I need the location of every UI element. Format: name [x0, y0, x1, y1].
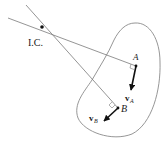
- rigid-body-diagram: I.C. A v A B v B: [0, 0, 165, 144]
- point-a-label: A: [132, 52, 139, 62]
- ic-label: I.C.: [28, 37, 43, 48]
- velocity-a-subscript: A: [129, 98, 134, 104]
- line-ic-to-b: [26, 5, 118, 108]
- velocity-b-arrow: [104, 108, 118, 121]
- right-angle-mark-b: [109, 102, 115, 108]
- velocity-b-subscript: B: [94, 118, 98, 124]
- point-b-label: B: [121, 103, 127, 114]
- ic-point: [40, 25, 44, 29]
